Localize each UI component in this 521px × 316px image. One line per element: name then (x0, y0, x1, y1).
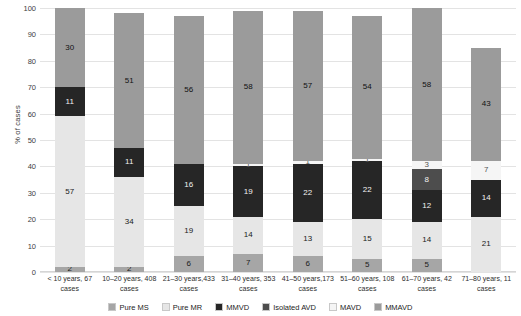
bar-segment-value: 57 (65, 188, 74, 196)
bar-segment-value: 58 (422, 81, 431, 89)
x-axis-category-labels: < 10 years, 67 cases10–20 years, 408 cas… (40, 274, 516, 298)
y-axis-tick-20: 20 (28, 215, 36, 224)
bar-segment-value: 51 (125, 77, 134, 85)
bar-segment[interactable]: 22 (293, 164, 323, 222)
y-axis-tick-labels: 0102030405060708090100 (14, 0, 36, 272)
bar-group[interactable]: 2114743 (471, 8, 501, 272)
bar-segment-value: 56 (184, 86, 193, 94)
bar-segment[interactable]: 15 (352, 219, 382, 259)
legend-label: MMVD (226, 303, 249, 312)
x-axis-label: 71–80 years, 11 cases (457, 274, 517, 293)
bar-stack: 71419158 (233, 8, 263, 272)
bar-segment[interactable]: 2 (114, 267, 144, 272)
bar-segment-value: 7 (246, 259, 250, 267)
legend-item[interactable]: Pure MR (162, 303, 203, 312)
legend-label: Pure MR (173, 303, 203, 312)
bar-segment[interactable]: 51 (114, 13, 144, 148)
x-axis-label: 10–20 years, 408 cases (100, 274, 160, 293)
legend-item[interactable]: MAVD (329, 303, 361, 312)
bar-segment[interactable]: 19 (233, 166, 263, 216)
bar-segment[interactable]: 2 (55, 267, 85, 272)
y-axis-tick-40: 40 (28, 162, 36, 171)
bar-segment[interactable]: 56 (174, 16, 204, 164)
x-axis-label: 41–50 years,173 cases (278, 274, 338, 293)
bar-group[interactable]: 514128358 (412, 8, 442, 272)
x-axis-label: 51–60 years, 108 cases (338, 274, 398, 293)
bar-segment[interactable]: 5 (352, 259, 382, 272)
bar-segment-value: 7 (484, 166, 488, 174)
bar-segment-value: 30 (65, 44, 74, 52)
legend-swatch-icon (329, 303, 337, 311)
bar-segment[interactable]: 7 (471, 161, 501, 179)
legend-item[interactable]: Isolated AVD (262, 303, 316, 312)
bar-segment[interactable]: 19 (174, 206, 204, 256)
bar-segment-value: 15 (363, 235, 372, 243)
bar-segment-value: 8 (425, 176, 429, 184)
bar-segment-value: 57 (303, 82, 312, 90)
bar-group[interactable]: 51522154 (352, 8, 382, 272)
bar-segment-value: 12 (422, 202, 431, 210)
bar-segment-value: 19 (244, 188, 253, 196)
bar-segment[interactable]: 14 (233, 217, 263, 254)
y-axis-tick-60: 60 (28, 109, 36, 118)
stacked-bar-chart: % of cases 0102030405060708090100 257113… (0, 0, 521, 316)
legend-swatch-icon (374, 303, 382, 311)
bar-segment[interactable]: 14 (412, 222, 442, 259)
bar-segment[interactable]: 13 (293, 222, 323, 256)
bar-segment[interactable]: 1 (233, 164, 263, 167)
bar-stack: 61322157 (293, 8, 323, 272)
bars-layer: 2571130234115161916567141915861322157515… (40, 8, 516, 272)
legend-label: MMAVD (385, 303, 412, 312)
bar-segment-value: 14 (422, 236, 431, 244)
bar-segment[interactable]: 12 (412, 190, 442, 222)
x-axis-label: 21–30 years,433 cases (159, 274, 219, 293)
bar-segment[interactable]: 22 (352, 161, 382, 219)
y-axis-tick-90: 90 (28, 30, 36, 39)
bar-segment[interactable]: 58 (233, 11, 263, 164)
legend-item[interactable]: Pure MS (108, 303, 148, 312)
bar-segment[interactable]: 34 (114, 177, 144, 267)
legend-item[interactable]: MMAVD (374, 303, 412, 312)
y-axis-tick-80: 80 (28, 56, 36, 65)
bar-segment[interactable]: 7 (233, 254, 263, 272)
bar-segment[interactable]: 30 (55, 8, 85, 87)
bar-segment[interactable]: 1 (352, 159, 382, 162)
bar-segment[interactable]: 54 (352, 16, 382, 159)
bar-segment[interactable]: 16 (174, 164, 204, 206)
bar-segment-value: 58 (244, 83, 253, 91)
bar-segment[interactable]: 1 (293, 161, 323, 164)
y-axis-tick-70: 70 (28, 83, 36, 92)
bar-group[interactable]: 2341151 (114, 8, 144, 272)
bar-stack: 6191656 (174, 8, 204, 272)
bar-segment[interactable]: 5 (412, 259, 442, 272)
bar-segment-value: 54 (363, 83, 372, 91)
bar-segment[interactable]: 58 (412, 8, 442, 161)
bar-segment-value: 34 (125, 218, 134, 226)
bar-segment[interactable]: 3 (412, 161, 442, 169)
bar-segment-value: 6 (187, 260, 191, 268)
bar-segment-value: 11 (125, 158, 133, 166)
y-axis-tick-30: 30 (28, 188, 36, 197)
bar-segment[interactable]: 14 (471, 180, 501, 217)
bar-segment[interactable]: 57 (55, 116, 85, 266)
bar-group[interactable]: 61322157 (293, 8, 323, 272)
bar-segment[interactable]: 43 (471, 48, 501, 162)
bar-segment[interactable]: 57 (293, 11, 323, 161)
bar-group[interactable]: 71419158 (233, 8, 263, 272)
legend-item[interactable]: MMVD (215, 303, 249, 312)
bar-group[interactable]: 2571130 (55, 8, 85, 272)
plot-area: 2571130234115161916567141915861322157515… (40, 8, 516, 272)
bar-group[interactable]: 6191656 (174, 8, 204, 272)
y-axis-tick-10: 10 (28, 241, 36, 250)
bar-segment[interactable]: 11 (114, 148, 144, 177)
bar-segment-value: 43 (482, 100, 491, 108)
bar-segment[interactable]: 6 (174, 256, 204, 272)
bar-segment[interactable]: 21 (471, 217, 501, 272)
bar-segment[interactable]: 8 (412, 169, 442, 190)
bar-segment[interactable]: 6 (293, 256, 323, 272)
bar-stack: 2571130 (55, 8, 85, 272)
bar-segment[interactable]: 11 (55, 87, 85, 116)
bar-segment-value: 14 (244, 231, 253, 239)
bar-segment-value: 16 (184, 181, 193, 189)
legend-swatch-icon (108, 303, 116, 311)
